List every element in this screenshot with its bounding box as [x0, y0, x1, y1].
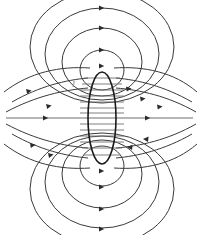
interior-field-lines — [80, 78, 124, 155]
arrowhead-icon — [43, 116, 48, 121]
arrowhead-icon — [99, 26, 104, 31]
arrowhead-icon — [99, 64, 104, 69]
field-loop-below-1 — [80, 146, 124, 186]
arrowhead-icon — [140, 96, 146, 101]
arrowhead-icon — [46, 104, 52, 109]
arrowhead-icon — [99, 207, 104, 212]
arrowhead-icon — [99, 185, 104, 190]
field-loop-below-2 — [62, 140, 142, 208]
open-field-line-ur-2 — [116, 88, 196, 112]
field-line-canvas — [0, 0, 199, 235]
open-field-line-ul-2 — [6, 88, 88, 112]
field-loop-above-3 — [45, 8, 159, 100]
open-field-line-ll-2 — [6, 124, 88, 148]
arrowhead-icon — [99, 6, 104, 11]
field-loop-below-3 — [45, 136, 159, 228]
closed-field-loops-above — [30, 0, 174, 103]
arrowhead-icon — [48, 153, 54, 158]
arrowhead-icon — [99, 169, 104, 174]
field-loop-above-4 — [30, 0, 174, 103]
arrowhead-icon — [143, 137, 149, 142]
open-field-line-lr-1 — [116, 134, 192, 158]
open-field-line-ul-1 — [12, 78, 88, 102]
arrowhead-icon — [145, 116, 150, 121]
arrowhead-icon — [99, 227, 104, 232]
arrowhead-icon — [99, 48, 104, 53]
arrowhead-icon — [157, 104, 163, 109]
magnetic-field-diagram: I — [0, 0, 199, 235]
current-label-I: I — [72, 80, 75, 89]
open-field-line-lr-2 — [116, 124, 196, 148]
